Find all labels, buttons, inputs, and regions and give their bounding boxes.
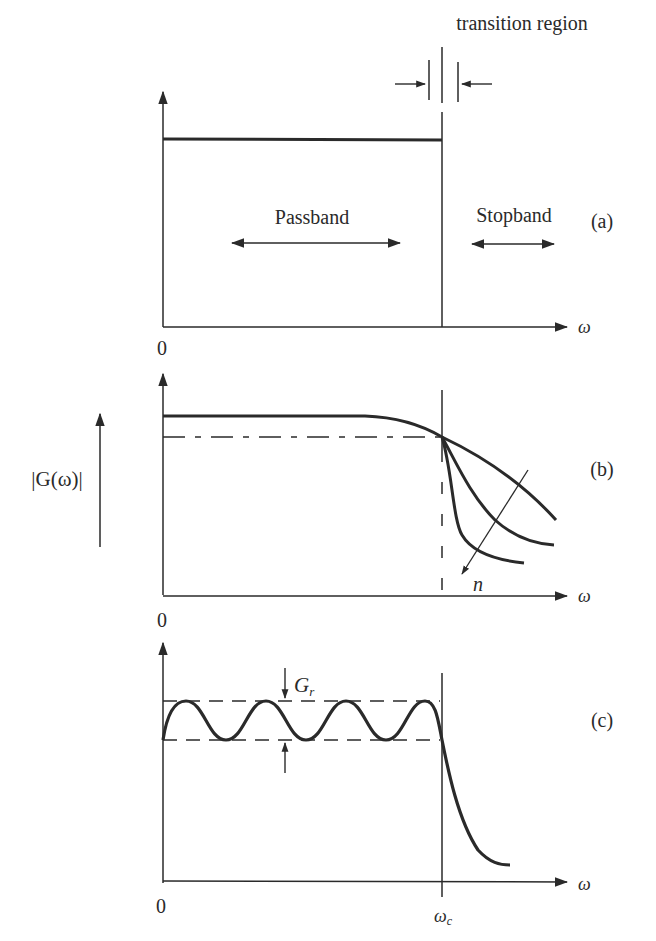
panel-a-tag: (a) [591, 210, 613, 233]
lowpass-filter-figure: transition region Passband Stopband (a) … [0, 0, 656, 941]
origin-label-a: 0 [157, 337, 167, 359]
order-label: n [473, 573, 483, 595]
stopband-label: Stopband [476, 204, 552, 227]
transition-region-label: transition region [456, 12, 588, 35]
response-curve-low-order [163, 416, 556, 520]
panel-c-tag: (c) [591, 709, 613, 732]
x-axis-label-a: ω [578, 317, 591, 337]
passband-label: Passband [275, 206, 349, 228]
response-curve-high-order [442, 437, 524, 563]
x-axis-label-c: ω [578, 874, 591, 894]
chebyshev-response-curve [163, 701, 510, 865]
cutoff-frequency-label: ωc [434, 906, 453, 928]
panel-a-ideal-filter: Passband Stopband (a) 0 ω [157, 92, 613, 359]
x-axis-label-b: ω [578, 586, 591, 606]
ideal-response-line [163, 139, 442, 140]
x-axis-c [163, 881, 567, 882]
origin-label-c: 0 [156, 895, 166, 917]
panel-c-chebyshev: Gr (c) 0 ω ωc [156, 643, 613, 928]
y-axis-label-magnitude: |G(ω)| [31, 467, 82, 491]
ripple-label: Gr [294, 673, 315, 699]
transition-region-marker [395, 47, 492, 120]
panel-b-butterworth: n (b) 0 ω |G(ω)| [31, 374, 613, 631]
panel-b-tag: (b) [590, 458, 613, 481]
origin-label-b: 0 [157, 609, 167, 631]
